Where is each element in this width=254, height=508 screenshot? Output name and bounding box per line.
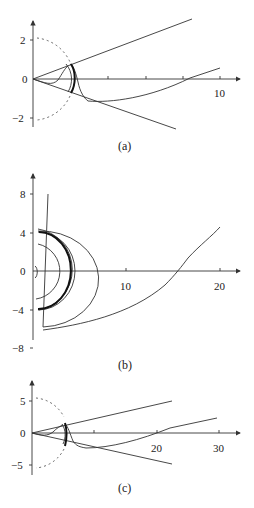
x-tick-label: 10 xyxy=(120,280,132,292)
y-tick-label: 8 xyxy=(20,188,26,200)
x-tick-label: 30 xyxy=(213,442,225,454)
panel-a: 2 0 −2 10 xyxy=(12,19,240,129)
y-tick-label: −5 xyxy=(11,459,23,471)
y-tick-label: 5 xyxy=(20,395,26,407)
x-tick-label: 20 xyxy=(214,280,226,292)
y-tick-label: −2 xyxy=(12,112,24,124)
trajectory xyxy=(33,64,220,101)
upper-boundary-line xyxy=(33,19,192,79)
arc-mid2 xyxy=(38,229,72,310)
x-tick-label: 20 xyxy=(151,442,163,454)
upper-boundary-line xyxy=(32,401,172,433)
figure: 2 0 −2 10 (a) 8 4 0 −4 −8 10 20 xyxy=(0,0,254,508)
arc-small xyxy=(36,244,60,299)
lower-boundary-line xyxy=(33,79,176,129)
y-tick-label: −8 xyxy=(12,342,24,354)
y-tick-label: −4 xyxy=(12,304,24,316)
y-tick-label: 2 xyxy=(20,34,26,46)
small-loop xyxy=(35,266,37,278)
wave-front xyxy=(62,424,65,444)
panel-c: 5 0 −5 20 30 xyxy=(11,381,240,475)
caption-a: (a) xyxy=(118,139,131,153)
caption-b: (b) xyxy=(118,358,132,372)
y-tick-label: 0 xyxy=(22,73,28,85)
wave-front xyxy=(66,64,72,92)
y-tick-label: 0 xyxy=(20,427,26,439)
arc-large xyxy=(38,231,99,327)
caption-c: (c) xyxy=(118,481,131,495)
y-tick-label: 0 xyxy=(20,265,26,277)
panel-b: 8 4 0 −4 −8 10 20 xyxy=(12,174,240,354)
x-tick-label: 10 xyxy=(214,87,226,99)
y-tick-label: 4 xyxy=(20,227,26,239)
